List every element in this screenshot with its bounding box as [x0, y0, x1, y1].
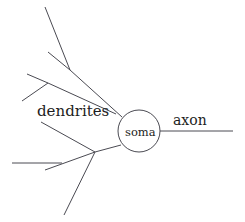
neuron-diagram: dendrites soma axon [0, 0, 245, 222]
dendrite-lower-branch-upleft [41, 122, 95, 152]
dendrites-label: dendrites [37, 102, 109, 120]
axon-label: axon [173, 112, 207, 128]
dendrite-upper-trunk-upper [45, 7, 70, 70]
dendrite-upper-mid-up [27, 74, 48, 83]
neuron-illustration: dendrites soma axon [0, 0, 245, 222]
soma-label: soma [125, 125, 156, 139]
dendrite-upper-mid-down [22, 83, 48, 101]
dendrite-lower-trunk [95, 145, 121, 152]
